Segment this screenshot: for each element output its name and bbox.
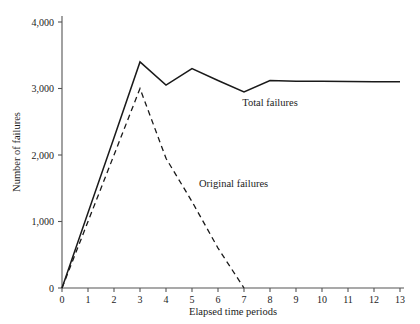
x-axis-tick-labels: 012345678910111213 xyxy=(60,294,406,305)
x-tick-label: 10 xyxy=(317,294,327,305)
y-tick-label: 4,000 xyxy=(32,17,55,28)
x-tick-label: 11 xyxy=(343,294,353,305)
series-annotations: Total failuresOriginal failures xyxy=(199,97,298,189)
x-tick-label: 13 xyxy=(395,294,405,305)
x-tick-label: 4 xyxy=(164,294,169,305)
y-tick-label: 1,000 xyxy=(32,216,55,227)
plot-area: 01,0002,0003,0004,000 012345678910111213… xyxy=(32,16,406,305)
x-axis-title: Elapsed time periods xyxy=(189,306,277,317)
series-lines xyxy=(62,62,400,288)
x-tick-label: 9 xyxy=(294,294,299,305)
y-tick-label: 2,000 xyxy=(32,150,55,161)
x-axis-ticks xyxy=(62,288,400,292)
x-tick-label: 3 xyxy=(138,294,143,305)
y-axis-ticks xyxy=(58,22,62,288)
x-tick-label: 6 xyxy=(216,294,221,305)
y-tick-label: 0 xyxy=(49,283,54,294)
x-tick-label: 2 xyxy=(112,294,117,305)
annotation-original-failures: Original failures xyxy=(199,178,268,189)
failures-line-chart: 01,0002,0003,0004,000 012345678910111213… xyxy=(0,0,420,324)
y-axis-title: Number of failures xyxy=(11,112,22,192)
y-axis-tick-labels: 01,0002,0003,0004,000 xyxy=(32,17,55,294)
x-tick-label: 0 xyxy=(60,294,65,305)
chart-canvas: 01,0002,0003,0004,000 012345678910111213… xyxy=(0,0,420,324)
x-tick-label: 5 xyxy=(190,294,195,305)
series-line-total-failures xyxy=(62,62,400,288)
y-tick-label: 3,000 xyxy=(32,83,55,94)
x-tick-label: 7 xyxy=(242,294,247,305)
x-tick-label: 12 xyxy=(369,294,379,305)
annotation-total-failures: Total failures xyxy=(242,97,298,108)
x-tick-label: 8 xyxy=(268,294,273,305)
x-tick-label: 1 xyxy=(86,294,91,305)
